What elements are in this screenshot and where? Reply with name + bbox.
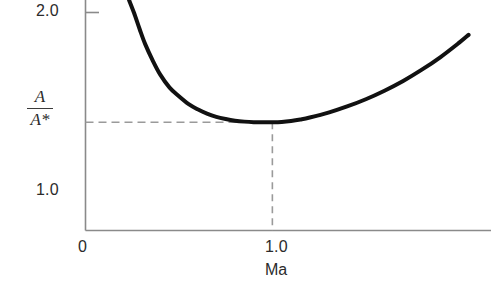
x-axis-title: Ma [265,261,287,279]
area-ratio-mach-chart: 2.0 1.0 0 1.0 Ma A A* [0,0,491,287]
y-axis-title-numerator: A [12,88,68,107]
fraction-bar-icon [27,108,53,109]
chart-plot-area [0,0,491,287]
area-ratio-curve [129,0,469,122]
y-axis-title: A A* [12,88,68,129]
x-tick-label-0: 0 [78,238,87,256]
x-tick-label-1: 1.0 [265,238,288,256]
y-tick-label-2: 2.0 [36,2,59,20]
y-axis-title-denominator: A* [12,110,68,129]
y-tick-label-1: 1.0 [36,181,59,199]
